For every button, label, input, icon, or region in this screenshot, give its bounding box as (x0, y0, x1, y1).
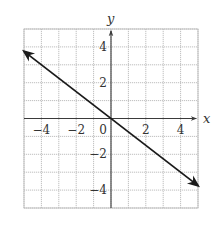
y-tick-label: 4 (99, 40, 107, 54)
x-tick-label: 0 (99, 123, 107, 137)
y-tick-label: −4 (89, 183, 107, 197)
y-axis-label: y (106, 11, 115, 26)
x-tick-label: 4 (177, 123, 185, 137)
x-axis-label: x (203, 111, 211, 126)
x-tick-label: −2 (67, 123, 85, 137)
coordinate-plane: −4−2024 42−2−4 x y (0, 0, 216, 226)
x-tick-label: 2 (142, 123, 150, 137)
x-tick-labels: −4−2024 (33, 123, 185, 137)
y-tick-label: −2 (89, 147, 107, 161)
x-tick-label: −4 (33, 123, 51, 137)
y-tick-label: 2 (99, 76, 107, 90)
